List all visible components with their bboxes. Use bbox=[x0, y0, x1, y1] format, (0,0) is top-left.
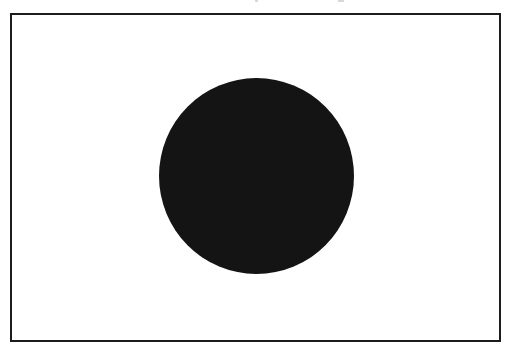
scan-speck bbox=[338, 0, 344, 2]
flag-disc bbox=[159, 78, 354, 274]
scan-speck bbox=[255, 0, 258, 2]
